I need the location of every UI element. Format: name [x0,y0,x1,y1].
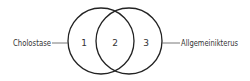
venn-diagram: Cholostase Allgemeinikterus 1 2 3 [0,0,250,81]
right-circle-allgemeinikterus [96,8,162,74]
label-cholostase: Cholostase [13,39,51,48]
left-circle-cholostase [68,8,134,74]
region-3-number: 3 [143,38,149,48]
region-1-number: 1 [81,38,87,48]
region-2-number: 2 [112,38,118,48]
label-allgemeinikterus: Allgemeinikterus [181,39,238,48]
